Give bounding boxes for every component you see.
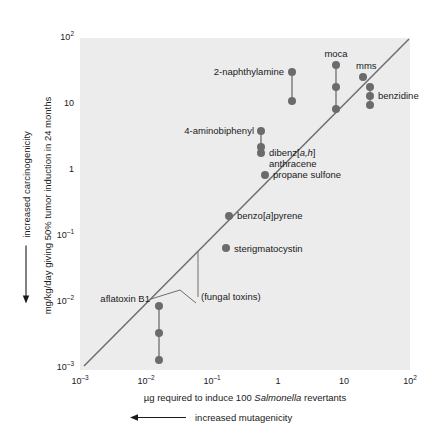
data-point-sterigmatocystin[interactable]: [222, 244, 230, 252]
data-point-aflatoxin-b1[interactable]: [155, 302, 163, 310]
data-label-aflatoxin-b1: aflatoxin B1: [58, 293, 150, 304]
data-point-mms[interactable]: [359, 73, 367, 81]
data-point-2-naphthylamine[interactable]: [288, 97, 296, 105]
data-label-moca: moca: [316, 48, 356, 59]
data-label-dibenz-ah-anthracene: dibenz[a,h] anthracene: [269, 147, 317, 169]
data-point-propane-sulfone[interactable]: [261, 171, 269, 179]
data-point-moca[interactable]: [332, 105, 340, 113]
data-point-4-aminobiphenyl[interactable]: [257, 143, 265, 151]
data-label-benzo-a-pyrene: benzo[a]pyrene: [237, 210, 303, 221]
data-point-aflatoxin-b1[interactable]: [155, 356, 163, 364]
data-label-4-aminobiphenyl: 4-aminobiphenyl: [149, 125, 254, 136]
data-label-mms: mms: [356, 60, 377, 71]
data-point-moca[interactable]: [332, 61, 340, 69]
data-point-moca[interactable]: [332, 83, 340, 91]
data-point-benzidine[interactable]: [366, 101, 374, 109]
leader-line-fungal-to-aflatoxin: [180, 290, 196, 303]
data-point-benzidine[interactable]: [366, 92, 374, 100]
data-label-sterigmatocystin: sterigmatocystin: [234, 243, 303, 254]
data-label-benzidine: benzidine: [378, 90, 419, 101]
data-point-aflatoxin-b1[interactable]: [155, 329, 163, 337]
data-label-fungal-toxins: (fungal toxins): [201, 291, 261, 302]
data-point-benzidine[interactable]: [366, 83, 374, 91]
data-point-2-naphthylamine[interactable]: [288, 68, 296, 76]
correlation-trendline: [84, 39, 409, 366]
data-label-2-naphthylamine: 2-naphthylamine: [179, 66, 284, 77]
data-point-benzo-a-pyrene[interactable]: [225, 212, 233, 220]
data-point-4-aminobiphenyl[interactable]: [257, 127, 265, 135]
data-label-propane-sulfone: propane sulfone: [273, 169, 341, 180]
chart-figure: 102 10 1 10–1 10–2 10–3 10–3 10–2 10–1 1…: [0, 0, 432, 442]
